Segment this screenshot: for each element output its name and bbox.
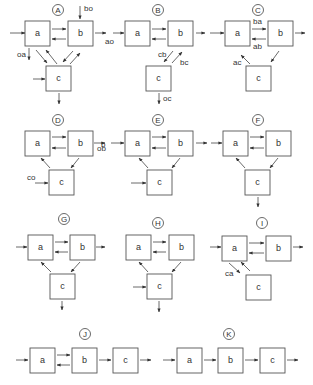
compartment-b: b [266,236,291,261]
rate-label: bo [84,4,93,13]
flow-arrow [139,158,148,168]
compartment-b: b [218,348,243,373]
flow-arrow [241,262,250,271]
svg-text:b: b [278,28,283,38]
svg-text:c: c [256,282,261,292]
compartment-a: a [225,21,250,46]
flow-arrow [41,158,50,168]
panel-j: Jabc [16,329,151,374]
flow-arrow [41,262,51,272]
svg-text:c: c [157,177,162,187]
svg-text:b: b [78,138,83,148]
flow-arrow [63,51,73,62]
compartment-a: a [177,348,202,373]
flow-arrow [241,55,250,64]
panel-f: Fabc [211,115,291,208]
compartment-a: a [125,21,150,46]
rate-label: cb [158,50,167,59]
compartment-a: a [25,21,50,46]
panel-k: Kabc [163,329,298,374]
svg-text:a: a [38,242,43,252]
svg-text:I: I [261,219,263,228]
svg-text:B: B [155,6,160,15]
compartment-c: c [246,275,271,300]
svg-text:a: a [232,243,237,253]
flow-arrow [36,50,47,63]
flow-arrow [270,158,278,168]
rate-label: oc [163,94,171,103]
svg-text:a: a [40,355,45,365]
rate-label: bc [180,58,188,67]
svg-text:c: c [60,281,65,291]
compartment-a: a [125,131,150,156]
rate-label: ac [233,58,241,67]
compartment-b: b [266,131,291,156]
svg-text:a: a [233,138,238,148]
compartment-a: a [223,131,248,156]
svg-text:c: c [123,355,128,365]
svg-text:b: b [178,28,183,38]
svg-text:a: a [35,138,40,148]
svg-text:F: F [256,116,261,125]
panel-label: I [257,218,268,229]
diagram-canvas: AabcboaooaBabccbbcocCabcbaabacDabcobcoEa… [0,0,313,385]
compartment-c: c [246,66,271,91]
compartment-c: c [147,274,172,299]
flow-arrow [71,158,79,168]
svg-text:H: H [155,219,161,228]
svg-text:C: C [255,6,261,15]
compartment-a: a [222,236,247,261]
panel-label: K [224,329,235,340]
panel-label: G [59,214,70,225]
compartment-a: a [30,348,55,373]
compartment-c: c [46,66,71,91]
svg-text:b: b [276,243,281,253]
svg-text:a: a [136,242,141,252]
svg-text:a: a [35,28,40,38]
flow-arrow [46,50,57,64]
flow-arrow [139,262,148,272]
flow-arrow [236,158,245,168]
svg-text:c: c [59,177,64,187]
rate-label: co [27,173,36,182]
panel-label: H [153,218,164,229]
svg-text:b: b [276,138,281,148]
compartment-diagram: AabcboaooaBabccbbcocCabcbaabacDabcobcoEa… [0,0,313,385]
svg-text:c: c [255,177,260,187]
svg-text:c: c [270,355,275,365]
rate-label: oa [17,50,26,59]
rate-label: ba [253,17,262,26]
compartment-a: a [28,235,53,260]
flow-arrow [71,262,80,272]
svg-text:J: J [83,330,87,339]
svg-text:c: c [56,73,61,83]
panel-d: Dabcobco [25,115,106,196]
compartment-c: c [245,170,270,195]
compartment-b: b [68,21,93,46]
svg-text:a: a [235,28,240,38]
panel-label: C [253,5,264,16]
svg-text:K: K [226,330,232,339]
compartment-b: b [268,21,293,46]
panel-a: Aabcboaooa [10,4,114,104]
compartment-c: c [49,170,74,195]
compartment-b: b [169,235,194,260]
svg-text:a: a [187,355,192,365]
svg-text:b: b [228,355,233,365]
flow-arrow [172,262,181,272]
panel-h: Habc [126,218,194,313]
svg-text:b: b [78,28,83,38]
panel-b: Babccbbcoc [113,5,205,105]
svg-text:c: c [157,281,162,291]
panel-label: J [80,329,91,340]
svg-text:D: D [55,116,61,125]
compartment-b: b [68,131,93,156]
svg-text:b: b [80,242,85,252]
flow-arrow [172,158,180,168]
compartment-c: c [260,348,285,373]
panel-label: B [153,5,164,16]
compartment-b: b [168,131,193,156]
svg-text:G: G [61,215,67,224]
panel-i: Iabcca [210,218,303,301]
flow-arrow [70,53,80,64]
